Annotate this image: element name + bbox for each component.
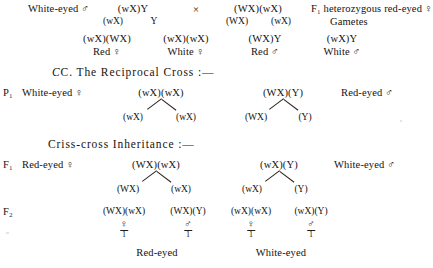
f1-parent-description: F₁ heterozygous red-eyed ♀ <box>311 3 433 14</box>
offspring-phenotype: Red ♀ <box>93 46 121 57</box>
f1-female-gamete-2: (wX) <box>171 184 191 194</box>
p1-female-genotype: (wX)(wX) <box>138 87 184 98</box>
parent-female-gamete-2: (wX) <box>271 16 291 26</box>
p1-male-gamete-1: (WX) <box>245 112 267 122</box>
offspring-genotype: (wX)(wX) <box>163 33 209 44</box>
p1-male-genotype: (WX)(Y) <box>263 87 303 98</box>
f1-male-gamete-1: (wX) <box>242 184 262 194</box>
offspring-genotype: (wX)(WX) <box>83 33 131 44</box>
scan-speckle <box>6 232 9 234</box>
f2-ratio-value: 1 <box>247 230 255 239</box>
gamete-split-connector <box>135 171 179 184</box>
p1-female-gamete-2: (wX) <box>176 112 196 122</box>
scan-speckle <box>400 120 402 122</box>
parent-female-genotype: (WX)(wX) <box>234 3 282 14</box>
parent-male-label: White-eyed ♂ <box>28 3 89 14</box>
generation-label-f2: F₂ <box>3 206 13 217</box>
section-c-title: C. The Reciprocal Cross :— <box>61 66 215 78</box>
f2-ratio: ♀ 1 <box>247 219 255 241</box>
parent-male-gamete-2: Y <box>151 16 158 26</box>
f2-ratio-value: 1 <box>307 230 315 239</box>
offspring-genotype: (wX)Y <box>327 33 358 44</box>
f2-sex-symbol: ♂ <box>307 219 315 230</box>
f2-sex-symbol: ♀ <box>120 219 128 230</box>
f1-male-genotype: (wX)(Y) <box>260 159 298 170</box>
f2-sex-symbol: ♂ <box>184 219 192 230</box>
p1-female-label: White-eyed ♀ <box>22 87 83 98</box>
cross-symbol: × <box>193 4 199 15</box>
f2-ratio-value: 1 <box>184 230 192 239</box>
f1-female-genotype: (WX)(wX) <box>132 159 180 170</box>
p1-male-gamete-2: (Y) <box>298 112 311 122</box>
crisscross-heading: Criss-cross Inheritance :— <box>48 138 195 150</box>
f1-female-label: Red-eyed ♀ <box>22 159 74 170</box>
f2-phenotype-red: Red-eyed <box>136 247 177 258</box>
f2-genotype: (WX)(Y) <box>170 206 205 216</box>
generation-label-p1: P₁ <box>3 87 13 98</box>
f2-ratio: ♀ 1 <box>120 219 128 241</box>
f2-ratio-value: 1 <box>120 230 128 239</box>
p1-male-label: Red-eyed ♂ <box>341 87 393 98</box>
offspring-genotype: (WX)Y <box>249 33 282 44</box>
gamete-split-connector <box>140 99 184 112</box>
f2-ratio: ♂ 1 <box>307 219 315 241</box>
section-c-letter: C <box>52 66 61 78</box>
f2-phenotype-white: White-eyed <box>256 247 306 258</box>
p1-female-gamete-1: (wX) <box>123 112 143 122</box>
section-c-heading: CC. The Reciprocal Cross :— <box>52 66 214 78</box>
f2-genotype: (wX)(wX) <box>231 206 271 216</box>
f2-genotype: (WX)(wX) <box>103 206 145 216</box>
parent-male-gamete-1: (wX) <box>103 16 123 26</box>
f1-male-gamete-2: (Y) <box>294 184 307 194</box>
parent-female-gamete-1: (WX) <box>226 16 248 26</box>
gamete-split-connector <box>258 171 302 184</box>
offspring-phenotype: Red ♂ <box>251 46 279 57</box>
f2-ratio: ♂ 1 <box>184 219 192 241</box>
f1-male-label: White-eyed ♂ <box>334 159 395 170</box>
parent-male-genotype: (wX)Y <box>118 3 149 14</box>
offspring-phenotype: White ♂ <box>323 46 360 57</box>
f1-female-gamete-1: (WX) <box>117 184 139 194</box>
gamete-split-connector <box>262 99 306 112</box>
generation-label-f1: F₁ <box>3 159 13 170</box>
gametes-label: Gametes <box>330 16 368 27</box>
offspring-phenotype: White ♀ <box>167 46 204 57</box>
f2-genotype: (wX)(Y) <box>294 206 327 216</box>
f2-sex-symbol: ♀ <box>247 219 255 230</box>
